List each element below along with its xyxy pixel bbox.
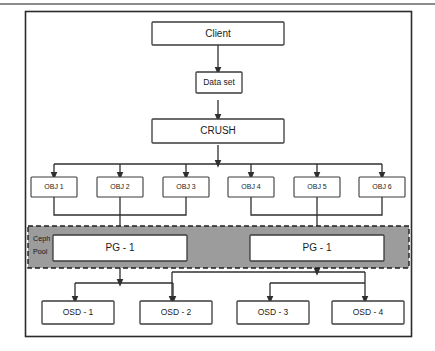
- node-obj-5-label: OBJ 5: [307, 183, 327, 190]
- node-pg-1-right-label: PG - 1: [303, 242, 332, 253]
- node-crush-label: CRUSH: [200, 125, 236, 136]
- diagram-canvas: Ceph Pool Client Data set CRUSH OBJ 1 OB…: [0, 0, 435, 351]
- node-obj-3-label: OBJ 3: [176, 183, 196, 190]
- ceph-pool-label-line1: Ceph: [33, 234, 50, 243]
- node-osd-3-label: OSD - 3: [258, 307, 289, 317]
- node-obj-1-label: OBJ 1: [44, 183, 64, 190]
- node-osd-2-label: OSD - 2: [161, 307, 192, 317]
- diagram-figure: Ceph Pool Client Data set CRUSH OBJ 1 OB…: [0, 0, 435, 351]
- node-client-label: Client: [205, 28, 231, 39]
- node-osd-1-label: OSD - 1: [63, 307, 94, 317]
- node-data-set-label: Data set: [203, 77, 235, 87]
- node-obj-2-label: OBJ 2: [110, 183, 130, 190]
- ceph-pool-label-line2: Pool: [33, 247, 48, 256]
- node-obj-6-label: OBJ 6: [372, 183, 392, 190]
- node-obj-4-label: OBJ 4: [241, 183, 261, 190]
- node-pg-1-left-label: PG - 1: [106, 242, 135, 253]
- node-osd-4-label: OSD - 4: [353, 307, 384, 317]
